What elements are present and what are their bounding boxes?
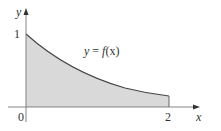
y-tick-1: 1 xyxy=(14,28,20,40)
curve-label-eq: = xyxy=(89,44,102,58)
x-axis-label: x xyxy=(196,111,201,123)
y-axis-arrow-icon xyxy=(24,8,29,15)
origin-label: 0 xyxy=(18,111,24,123)
curve-label: y = f(x) xyxy=(84,45,119,57)
x-axis-arrow-icon xyxy=(193,105,200,110)
area-under-curve-diagram xyxy=(0,0,221,131)
x-tick-2: 2 xyxy=(165,111,171,123)
y-axis-label: y xyxy=(16,6,21,18)
curve-label-arg: (x) xyxy=(105,44,119,58)
